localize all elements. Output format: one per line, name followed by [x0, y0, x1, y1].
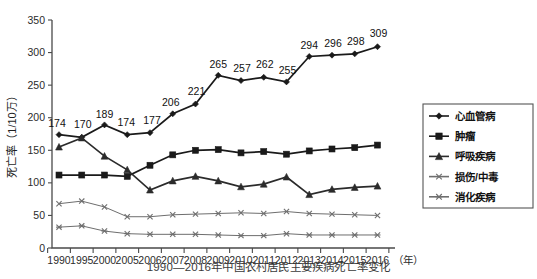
- legend-label: 损伤/中毒: [455, 171, 499, 183]
- series-marker: [79, 172, 85, 178]
- chart-figure: 050100150200250300350死亡率（1/10万）199019952…: [0, 0, 537, 279]
- series-marker: [101, 172, 107, 178]
- series-marker: [147, 162, 153, 168]
- series-marker: [215, 147, 221, 153]
- data-labels: 1741701891741772062212652572622552942962…: [48, 27, 387, 130]
- series-marker: [352, 145, 358, 151]
- legend-label: 心血管病: [455, 110, 496, 122]
- series-marker: [56, 132, 62, 138]
- data-label: 265: [209, 58, 227, 70]
- series-4: [56, 198, 380, 219]
- data-label: 257: [233, 62, 251, 74]
- series-marker: [124, 132, 130, 138]
- series-marker: [283, 151, 289, 157]
- series-marker: [101, 228, 107, 233]
- data-label: 170: [74, 118, 92, 130]
- legend-label: 肿瘤: [455, 130, 476, 142]
- series-marker: [283, 231, 289, 236]
- series-marker: [79, 223, 85, 228]
- chart-caption: 1990—2016年中国农村居民主要疾病死亡率变化: [0, 258, 537, 274]
- series-5: [56, 223, 380, 238]
- series-marker: [147, 232, 153, 237]
- data-label: 189: [96, 108, 114, 120]
- y-tick-label: 200: [27, 111, 45, 123]
- series-marker: [261, 74, 267, 80]
- series-marker: [192, 147, 198, 153]
- data-label: 206: [162, 96, 180, 108]
- y-tick-label: 0: [39, 242, 45, 254]
- y-tick-label: 300: [27, 46, 45, 58]
- series-marker: [352, 51, 358, 57]
- series-marker: [56, 225, 62, 230]
- data-label: 309: [370, 27, 388, 39]
- series-marker: [306, 148, 312, 154]
- data-label: 262: [256, 58, 274, 70]
- y-axis-ticks: 050100150200250300350: [27, 14, 52, 254]
- series-marker: [238, 150, 244, 156]
- series-marker: [261, 149, 267, 155]
- y-axis-title-text: 死亡率（1/10万）: [5, 90, 18, 177]
- chart-legend: 心血管病肿瘤呼吸疾病损伤/中毒消化疾病: [423, 104, 533, 208]
- series-marker: [56, 172, 62, 178]
- series-marker: [170, 152, 176, 158]
- series-marker: [306, 232, 312, 237]
- series-marker: [124, 166, 131, 173]
- chart-svg: 050100150200250300350死亡率（1/10万）199019952…: [0, 0, 537, 279]
- series-marker: [238, 233, 244, 238]
- series-marker: [329, 52, 335, 58]
- series-marker: [374, 142, 380, 148]
- series-marker: [329, 146, 335, 152]
- series-2: [56, 142, 380, 179]
- data-label: 174: [117, 116, 135, 128]
- data-label: 221: [188, 85, 206, 97]
- series-marker: [170, 232, 176, 237]
- legend-marker-square-icon: [436, 133, 442, 139]
- series-marker: [124, 173, 130, 179]
- series-3: [56, 134, 381, 197]
- y-tick-label: 100: [27, 176, 45, 188]
- series-marker: [374, 44, 380, 50]
- y-tick-label: 150: [27, 144, 45, 156]
- y-axis-title: 死亡率（1/10万）: [5, 90, 18, 177]
- series-marker: [283, 173, 290, 180]
- y-tick-label: 350: [27, 14, 45, 26]
- series-marker: [329, 232, 335, 237]
- series-marker: [261, 233, 267, 238]
- y-tick-label: 250: [27, 79, 45, 91]
- series-marker: [124, 231, 130, 236]
- y-tick-label: 50: [33, 209, 45, 221]
- data-label: 296: [324, 37, 342, 49]
- series-marker: [192, 232, 198, 237]
- legend-label: 消化疾病: [455, 191, 496, 203]
- series-marker: [352, 232, 358, 237]
- series-marker: [238, 78, 244, 84]
- data-label: 177: [143, 114, 161, 126]
- legend-label: 呼吸疾病: [455, 150, 496, 162]
- series-marker: [374, 232, 380, 237]
- data-label: 294: [300, 39, 318, 51]
- data-label: 298: [347, 35, 365, 47]
- data-label: 174: [48, 117, 66, 129]
- data-label: 255: [279, 64, 297, 76]
- series-marker: [215, 232, 221, 237]
